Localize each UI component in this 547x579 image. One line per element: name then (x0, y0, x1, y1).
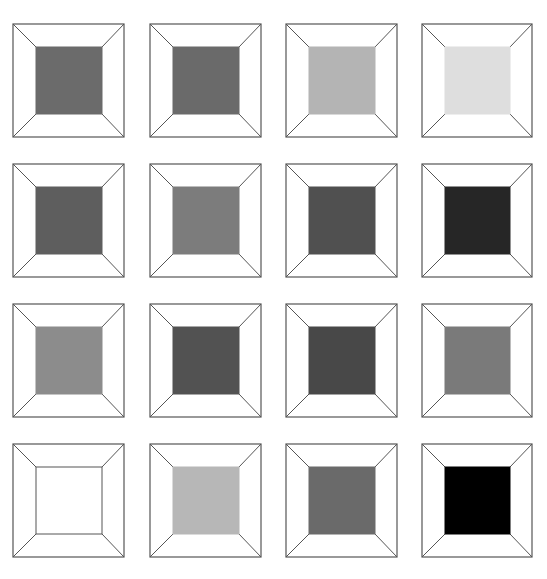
framed-square-r3-c1 (13, 304, 124, 417)
framed-square-r1-c4 (422, 24, 532, 137)
inner-gray-square (309, 47, 375, 114)
inner-gray-square (173, 467, 239, 534)
inner-gray-square (36, 47, 102, 114)
inner-gray-square (36, 467, 102, 534)
inner-gray-square (173, 47, 239, 114)
framed-square-r1-c1 (13, 24, 124, 137)
framed-square-r3-c2 (150, 304, 261, 417)
framed-square-r3-c3 (286, 304, 397, 417)
framed-squares-grid (0, 0, 547, 579)
inner-gray-square (309, 327, 375, 394)
inner-gray-square (36, 187, 102, 254)
inner-gray-square (173, 187, 239, 254)
framed-square-r2-c2 (150, 164, 261, 277)
framed-square-r4-c4 (422, 444, 532, 557)
framed-square-r1-c2 (150, 24, 261, 137)
framed-square-r2-c1 (13, 164, 124, 277)
framed-square-r4-c3 (286, 444, 397, 557)
framed-square-r2-c4 (422, 164, 532, 277)
inner-gray-square (445, 47, 510, 114)
framed-square-r3-c4 (422, 304, 532, 417)
inner-gray-square (309, 467, 375, 534)
inner-gray-square (36, 327, 102, 394)
inner-gray-square (445, 187, 510, 254)
framed-square-r4-c2 (150, 444, 261, 557)
framed-square-r2-c3 (286, 164, 397, 277)
framed-square-r1-c3 (286, 24, 397, 137)
inner-gray-square (173, 327, 239, 394)
inner-gray-square (309, 187, 375, 254)
inner-gray-square (445, 467, 510, 534)
framed-square-r4-c1 (13, 444, 124, 557)
inner-gray-square (445, 327, 510, 394)
